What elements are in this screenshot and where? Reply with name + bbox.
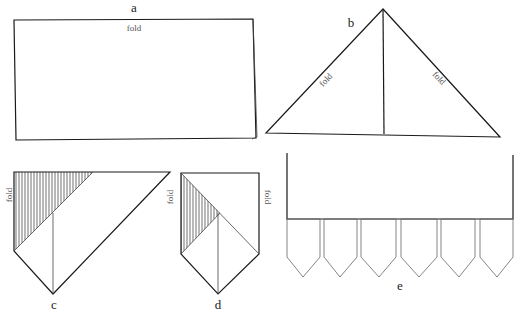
panel-e-label: e [397,278,403,293]
panel-d: fold fold d [165,173,273,312]
panel-b-center-crease [383,9,384,134]
panel-a-label: a [131,0,137,15]
panel-d-fold-label-left: fold [165,189,175,204]
panel-e-tab [287,219,320,277]
panel-a-fold-label: fold [127,23,142,33]
panel-e-tab [441,219,475,277]
panel-b-fold-label-left: fold [317,71,335,89]
panel-d-label: d [215,297,222,312]
panel-a: a fold [14,0,257,140]
panel-b-fold-label-right: fold [431,69,449,87]
panel-c-label: c [51,297,57,312]
panel-b-label: b [348,15,355,30]
panel-e-tab [480,219,513,277]
panel-d-fold-label-right: fold [263,190,273,205]
panel-b: b fold fold [266,9,500,137]
fold-diagram: a fold b fold fold fold c fold fold d [0,0,520,318]
panel-d-shaded-triangle [181,173,220,254]
panel-e-tab [401,219,437,277]
panel-c-fold-label: fold [4,187,14,202]
panel-e-strip [287,153,513,219]
panel-a-rectangle [14,19,256,140]
panel-e-tab [361,219,396,277]
panel-e: e [287,153,513,293]
panel-e-tab [324,219,357,277]
panel-c: fold c [4,172,170,312]
